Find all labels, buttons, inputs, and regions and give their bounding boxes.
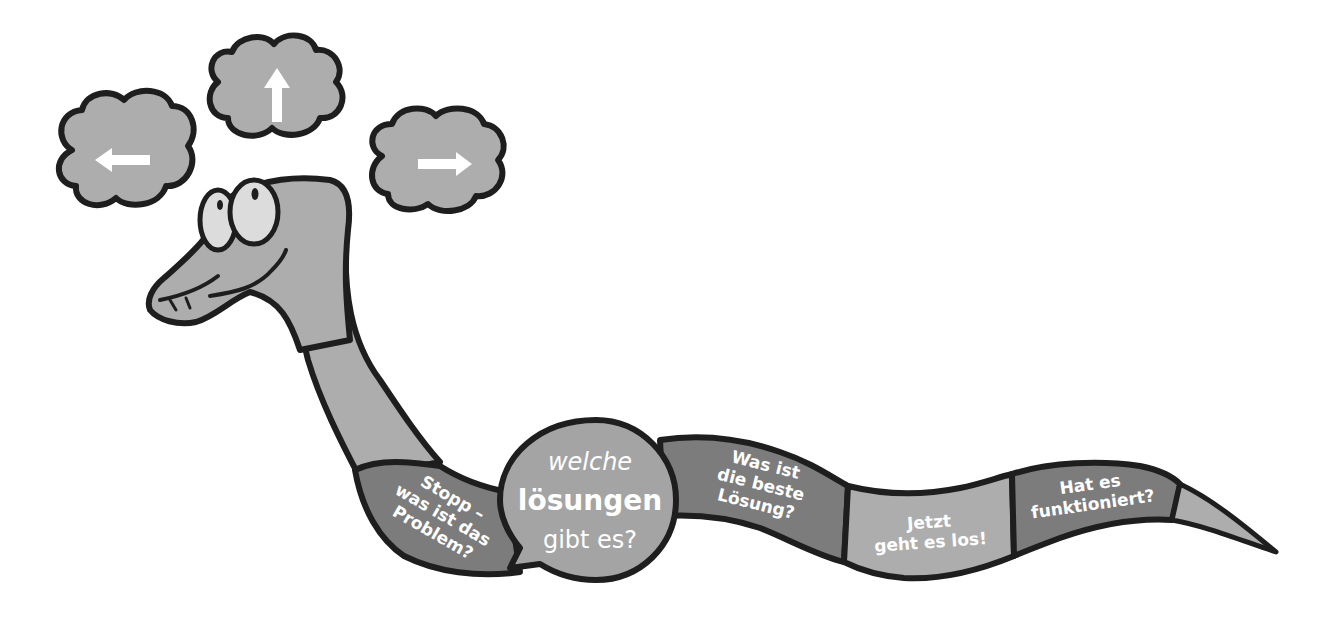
svg-text:lösungen: lösungen bbox=[518, 484, 662, 517]
thought-cloud-left bbox=[59, 91, 194, 205]
snake-illustration: Stopp – was ist das Problem? welche lösu… bbox=[0, 0, 1326, 620]
snake-tail bbox=[1172, 484, 1276, 552]
thought-cloud-right bbox=[372, 108, 504, 211]
svg-text:welche: welche bbox=[548, 448, 632, 476]
snake-head bbox=[149, 178, 350, 350]
svg-text:gibt es?: gibt es? bbox=[543, 526, 637, 554]
thought-cloud-top bbox=[210, 35, 343, 135]
